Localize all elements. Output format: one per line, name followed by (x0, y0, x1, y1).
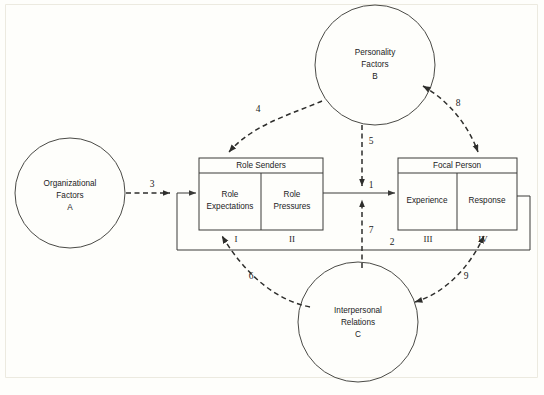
circle-a-line1: Organizational (44, 179, 97, 188)
edge-7-label: 7 (369, 225, 374, 235)
node-organizational-factors: Organizational Factors A (15, 138, 125, 248)
experience-label: Experience (407, 196, 448, 205)
box-focal-person: Focal Person Experience Response III IV (398, 158, 517, 244)
circle-a-line3: A (67, 203, 73, 212)
focal-person-title: Focal Person (433, 161, 482, 170)
circle-c-line1: Interpersonal (334, 306, 382, 315)
role-senders-title: Role Senders (236, 161, 286, 170)
edge-1-label: 1 (369, 180, 374, 190)
circle-b-line1: Personality (355, 48, 396, 57)
circle-b-line2: Factors (361, 60, 388, 69)
edge-7: 7 (362, 200, 374, 268)
edge-3: 3 (126, 179, 196, 193)
roman-numeral-iv: IV (478, 234, 488, 244)
roman-numeral-iii: III (424, 234, 433, 244)
edge-4: 4 (229, 101, 322, 152)
circle-c-line2: Relations (341, 318, 375, 327)
edge-9-label: 9 (464, 271, 469, 281)
roman-numeral-i: I (235, 234, 238, 244)
circle-c-line3: C (355, 330, 361, 339)
role-pressures-line2: Pressures (274, 202, 311, 211)
roman-numeral-ii: II (289, 234, 295, 244)
edge-8-label: 8 (456, 98, 461, 108)
node-interpersonal-relations: Interpersonal Relations C (298, 262, 418, 382)
edge-8: 8 (423, 86, 478, 152)
edge-9: 9 (415, 236, 484, 302)
page-frame (6, 5, 538, 378)
role-expectations-line1: Role (222, 190, 239, 199)
edge-3-label: 3 (150, 179, 155, 189)
edge-1: 1 (323, 180, 395, 193)
edge-5-label: 5 (369, 136, 374, 146)
edge-6: 6 (222, 236, 310, 307)
role-episode-diagram: Organizational Factors A Personality Fac… (0, 0, 544, 395)
edge-5: 5 (362, 125, 374, 186)
circle-a-line2: Factors (56, 191, 83, 200)
edge-2-label: 2 (390, 237, 395, 247)
role-pressures-line1: Role (284, 190, 301, 199)
response-label: Response (469, 196, 506, 205)
diagram-canvas: Organizational Factors A Personality Fac… (0, 0, 544, 395)
node-personality-factors: Personality Factors B (315, 5, 435, 125)
box-role-senders: Role Senders Role Expectations Role Pres… (199, 158, 323, 244)
edge-6-label: 6 (249, 271, 254, 281)
edge-4-label: 4 (256, 104, 261, 114)
role-expectations-line2: Expectations (207, 202, 254, 211)
circle-b-line3: B (372, 72, 378, 81)
